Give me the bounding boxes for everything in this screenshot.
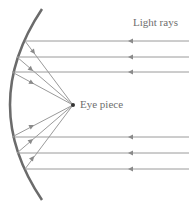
- light-rays-label: Light rays: [133, 16, 178, 28]
- eye-piece-label: Eye piece: [80, 98, 123, 110]
- ray-arrowheads: [128, 39, 133, 172]
- concave-mirror: [10, 9, 42, 200]
- reflected-arrowheads: [28, 49, 37, 162]
- eye-piece-focal-point: [71, 103, 75, 107]
- reflected-rays: [12, 41, 73, 169]
